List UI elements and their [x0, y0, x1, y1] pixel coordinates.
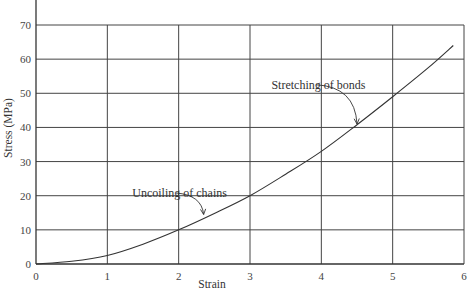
x-tick-label: 6 [461, 270, 467, 282]
x-tick-label: 1 [105, 270, 111, 282]
stress-strain-curve [36, 45, 453, 264]
x-tick-label: 3 [247, 270, 253, 282]
y-tick-label: 10 [20, 224, 32, 236]
stress-strain-chart: 0123456 010203040506070 Uncoiling of cha… [0, 0, 471, 291]
y-tick-label: 40 [20, 121, 32, 133]
y-tick-label: 20 [20, 190, 32, 202]
grid-lines [36, 25, 464, 264]
x-tick-label: 0 [33, 270, 39, 282]
y-tick-labels: 010203040506070 [20, 19, 32, 270]
y-tick-label: 60 [20, 53, 32, 65]
y-tick-label: 0 [26, 258, 32, 270]
y-tick-label: 30 [20, 156, 32, 168]
annotations: Uncoiling of chains Stretching of bonds [132, 78, 365, 215]
y-axis-title: Stress (MPa) [2, 98, 15, 158]
x-tick-label: 4 [319, 270, 325, 282]
y-tick-label: 50 [20, 87, 32, 99]
x-tick-label: 2 [176, 270, 182, 282]
y-tick-label: 70 [20, 19, 32, 31]
x-axis-title: Strain [198, 278, 226, 290]
x-tick-labels: 0123456 [33, 270, 467, 282]
x-tick-label: 5 [390, 270, 396, 282]
